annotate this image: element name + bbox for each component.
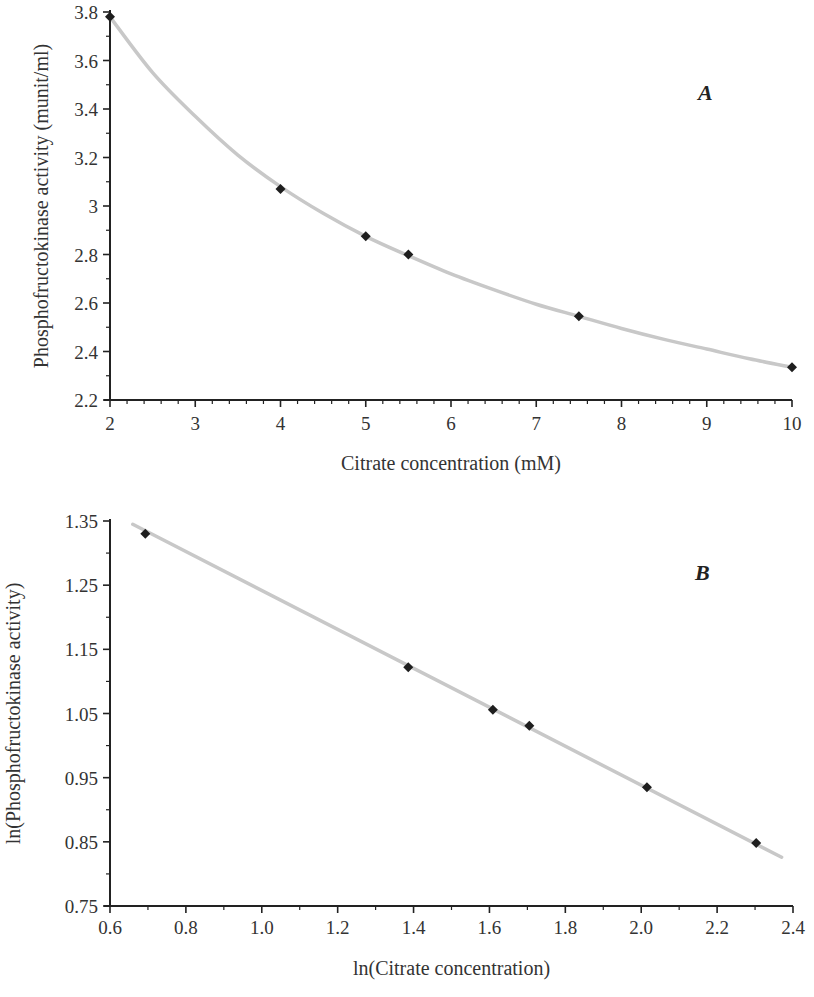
x-tick-label: 1.4 bbox=[402, 917, 426, 938]
y-tick-label: 1.05 bbox=[65, 704, 98, 725]
y-tick-label: 1.15 bbox=[65, 639, 98, 660]
x-tick-label: 1.0 bbox=[250, 917, 274, 938]
chart-panel-a: 23456789102.22.42.62.833.23.43.63.8Citra… bbox=[30, 2, 802, 475]
trend-line bbox=[133, 524, 782, 857]
y-tick-label: 3 bbox=[89, 196, 99, 217]
x-tick-label: 2.0 bbox=[629, 917, 653, 938]
x-tick-label: 1.2 bbox=[326, 917, 350, 938]
y-tick-label: 2.4 bbox=[74, 342, 98, 363]
x-tick-label: 9 bbox=[702, 413, 712, 434]
x-tick-label: 4 bbox=[276, 413, 286, 434]
y-tick-label: 0.75 bbox=[65, 896, 98, 917]
x-tick-label: 0.8 bbox=[174, 917, 198, 938]
x-tick-label: 10 bbox=[783, 413, 802, 434]
panel-label: B bbox=[694, 560, 710, 585]
y-tick-label: 1.35 bbox=[65, 511, 98, 532]
y-tick-label: 3.2 bbox=[74, 148, 98, 169]
y-axis-title: ln(Phosphofructokinase activity) bbox=[2, 583, 25, 845]
x-tick-label: 2 bbox=[105, 413, 115, 434]
data-point-diamond bbox=[574, 311, 584, 321]
y-tick-label: 0.85 bbox=[65, 832, 98, 853]
chart-panel-b: 0.60.81.01.21.41.61.82.02.22.40.750.850.… bbox=[2, 511, 805, 980]
y-tick-label: 3.8 bbox=[74, 2, 98, 23]
x-axis-title: ln(Citrate concentration) bbox=[353, 957, 550, 980]
x-tick-label: 0.6 bbox=[98, 917, 122, 938]
y-tick-label: 3.4 bbox=[74, 99, 98, 120]
y-tick-label: 2.2 bbox=[74, 390, 98, 411]
x-tick-label: 5 bbox=[361, 413, 371, 434]
y-axis-title: Phosphofructokinase activity (munit/ml) bbox=[30, 44, 53, 368]
y-tick-label: 2.6 bbox=[74, 293, 98, 314]
x-tick-label: 8 bbox=[617, 413, 627, 434]
y-tick-label: 2.8 bbox=[74, 245, 98, 266]
y-tick-label: 0.95 bbox=[65, 768, 98, 789]
x-axis-title: Citrate concentration (mM) bbox=[341, 452, 561, 475]
trend-line bbox=[110, 17, 792, 367]
x-tick-label: 3 bbox=[191, 413, 201, 434]
panel-label: A bbox=[696, 80, 713, 105]
y-tick-label: 3.6 bbox=[74, 51, 98, 72]
y-tick-label: 1.25 bbox=[65, 575, 98, 596]
figure: 23456789102.22.42.62.833.23.43.63.8Citra… bbox=[0, 0, 814, 997]
data-point-diamond bbox=[787, 362, 797, 372]
x-tick-label: 7 bbox=[532, 413, 542, 434]
x-tick-label: 1.8 bbox=[553, 917, 577, 938]
x-tick-label: 6 bbox=[446, 413, 456, 434]
x-tick-label: 1.6 bbox=[478, 917, 502, 938]
x-tick-label: 2.2 bbox=[705, 917, 729, 938]
x-tick-label: 2.4 bbox=[781, 917, 805, 938]
